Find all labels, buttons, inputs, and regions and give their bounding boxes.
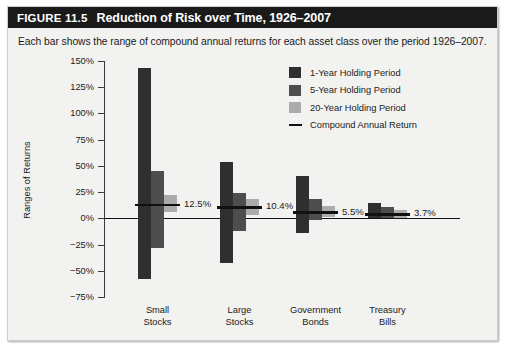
legend-swatch-icon — [289, 85, 301, 96]
y-axis-tick — [98, 113, 104, 114]
y-axis-tick-label: 150% — [54, 56, 94, 66]
y-axis-line — [104, 61, 105, 298]
legend-item: 1-Year Holding Period — [289, 64, 417, 82]
compound-annual-return-label: 12.5% — [184, 198, 211, 209]
compound-annual-return-label: 5.5% — [342, 205, 364, 216]
y-axis-tick-label: −50% — [54, 266, 94, 276]
legend-label: 20-Year Holding Period — [310, 103, 406, 113]
y-axis-tick — [98, 192, 104, 193]
bar-group: 12.5% — [138, 47, 218, 283]
y-axis-tick — [98, 297, 104, 298]
compound-annual-return-label: 10.4% — [266, 200, 293, 211]
legend-swatch-icon — [289, 102, 301, 113]
chart-plot-area: 150%125%100%75%50%25%0%−25%−50%−75% Rang… — [8, 47, 498, 332]
legend-label: 5-Year Holding Period — [310, 85, 401, 95]
y-axis-tick — [98, 245, 104, 246]
bar-1-year — [296, 176, 309, 233]
y-axis-tick-label: 75% — [54, 135, 94, 145]
bar-1-year — [220, 162, 233, 264]
y-axis-tick-label: 0% — [54, 213, 94, 223]
bar-5-year — [151, 171, 164, 248]
figure-number: FIGURE 11.5 — [17, 12, 88, 24]
y-axis-tick — [98, 166, 104, 167]
y-axis-tick-labels: 150%125%100%75%50%25%0%−25%−50%−75% — [50, 47, 94, 332]
legend-label: Compound Annual Return — [310, 120, 417, 130]
y-axis-tick — [98, 61, 104, 62]
compound-annual-return-label: 3.7% — [414, 207, 436, 218]
y-axis-tick-label: 125% — [54, 82, 94, 92]
legend-line-icon — [289, 124, 302, 126]
y-axis-tick — [98, 87, 104, 88]
y-axis-tick — [98, 140, 104, 141]
y-axis-tick-label: 25% — [54, 187, 94, 197]
compound-annual-return-line — [135, 204, 180, 206]
y-axis-title: Ranges of Returns — [22, 125, 32, 235]
y-axis-tick — [98, 218, 104, 219]
y-axis-tick-label: 100% — [54, 108, 94, 118]
bar-5-year — [309, 199, 322, 220]
y-axis-tick — [98, 271, 104, 272]
figure-panel: FIGURE 11.5 Reduction of Risk over Time,… — [7, 6, 498, 341]
y-axis-tick-label: −25% — [54, 240, 94, 250]
bar-1-year — [138, 68, 151, 279]
category-label: Small Stocks — [113, 305, 203, 328]
y-axis-tick-label: −75% — [54, 292, 94, 302]
legend-item: Compound Annual Return — [289, 117, 417, 135]
figure-caption: Each bar shows the range of compound ann… — [8, 28, 497, 47]
legend-item: 5-Year Holding Period — [289, 82, 417, 100]
figure-title: Reduction of Risk over Time, 1926–2007 — [97, 11, 331, 25]
category-label: Treasury Bills — [343, 305, 433, 328]
compound-annual-return-line — [293, 211, 338, 213]
chart-legend: 1-Year Holding Period5-Year Holding Peri… — [289, 64, 417, 134]
figure-container: FIGURE 11.5 Reduction of Risk over Time,… — [0, 0, 505, 348]
legend-label: 1-Year Holding Period — [310, 68, 401, 78]
bar-group: 10.4% — [220, 47, 300, 283]
figure-header: FIGURE 11.5 Reduction of Risk over Time,… — [8, 7, 497, 28]
y-axis-tick-label: 50% — [54, 161, 94, 171]
legend-swatch-icon — [289, 67, 301, 78]
legend-item: 20-Year Holding Period — [289, 99, 417, 117]
bar-1-year — [368, 203, 381, 219]
compound-annual-return-line — [365, 213, 410, 215]
bar-5-year — [233, 193, 246, 231]
compound-annual-return-line — [217, 206, 262, 208]
